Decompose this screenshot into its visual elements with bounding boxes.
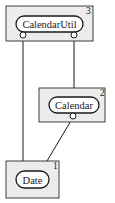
layer-number: 1 [53,161,58,171]
port-circle-icon [20,32,26,38]
node-label: Date [23,175,43,186]
layer-number: 2 [100,88,105,98]
layer-2-box: 2 Calendar [39,88,105,122]
port-circle-icon [71,32,77,38]
layer-number: 3 [86,6,91,16]
layer-1-box: 1 Date [6,161,59,198]
port-circle-icon [70,113,76,119]
node-label: Calendar [55,100,93,111]
layer-3-box: 3 CalendarUtil [6,6,93,41]
dependency-diagram: 3 CalendarUtil 2 Calendar 1 Date [0,0,115,203]
node-label: CalendarUtil [22,19,76,30]
